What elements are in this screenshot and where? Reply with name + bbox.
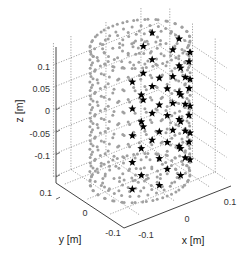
x-tick-label: 0 <box>184 214 189 224</box>
grid-lines <box>53 7 226 214</box>
y-tick-label: -0.1 <box>105 228 121 238</box>
z-tick-label: 0.05 <box>32 84 50 94</box>
z-tick-label: -0.05 <box>29 129 50 139</box>
x-axis-label: x [m] <box>182 234 205 246</box>
x-tick-label: -0.1 <box>138 230 154 240</box>
y-axis-label: y [m] <box>59 233 82 245</box>
y-tick-label: 0.1 <box>39 188 52 198</box>
y-tick-label: 0 <box>82 208 87 218</box>
z-tick-label: 0 <box>45 106 50 116</box>
3d-scatter-chart: 0.1 0.05 0 -0.05 -0.1 0.1 0 -0.1 -0.1 0 … <box>0 0 248 261</box>
z-axis-label: z [m] <box>13 100 25 123</box>
y-axis-line <box>56 183 124 228</box>
z-tick-label: 0.1 <box>37 62 50 72</box>
x-tick-label: 0.1 <box>224 197 237 207</box>
z-tick-label: -0.1 <box>34 151 50 161</box>
